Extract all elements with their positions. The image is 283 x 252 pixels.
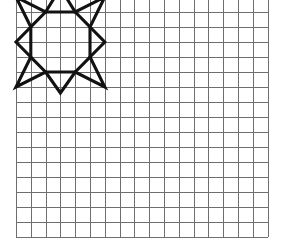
worksheet-canvas [0, 0, 283, 252]
grid-lines [16, 0, 269, 238]
grid-and-figure-svg [0, 0, 283, 252]
